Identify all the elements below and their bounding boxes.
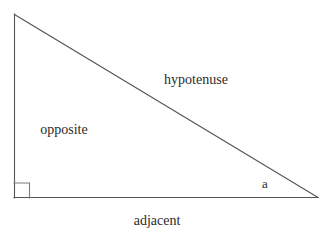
opposite-label: opposite xyxy=(40,123,87,137)
adjacent-label: adjacent xyxy=(134,214,181,228)
angle-a-label: a xyxy=(262,177,268,190)
right-triangle-diagram: hypotenuse opposite adjacent a xyxy=(0,0,335,245)
hypotenuse-label: hypotenuse xyxy=(164,73,228,87)
right-angle-marker-icon xyxy=(14,183,30,198)
hypotenuse-side-line xyxy=(15,15,319,198)
